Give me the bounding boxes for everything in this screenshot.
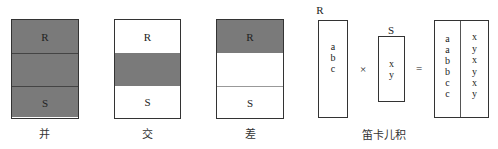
result-right-value: x [461,54,488,65]
cartesian-r-value: b [319,52,347,63]
result-left-value: b [435,55,460,66]
result-left-value: c [435,77,460,88]
intersection-overlap-region [115,53,180,86]
intersection-diagram: R S [114,19,181,119]
difference-r-label: R [217,31,283,43]
union-diagram: R S [11,19,79,119]
cartesian-r-label: R [312,4,328,16]
cartesian-result-box: a a b b c c x y x y x y [434,20,489,118]
cartesian-s-value: y [379,69,404,80]
cartesian-caption: 笛卡儿积 [359,126,409,142]
difference-s-label: S [217,97,283,109]
difference-overlap-region [217,53,283,86]
result-right-value: x [461,31,488,42]
union-caption: 并 [34,125,54,141]
cartesian-s-box: x y [378,36,405,102]
result-left-value: b [435,66,460,77]
result-left-value: a [435,33,460,44]
intersection-r-region: R [115,20,180,53]
cartesian-s-label: S [383,24,399,36]
result-left-value: c [435,88,460,99]
intersection-s-label: S [115,96,180,108]
union-overlap-region [12,53,78,86]
times-symbol: × [360,63,366,75]
cartesian-r-value: c [319,63,347,74]
intersection-caption: 交 [137,125,157,141]
result-left-value: a [435,44,460,55]
intersection-r-label: R [115,31,180,43]
difference-r-region: R [217,20,283,53]
difference-diagram: R S [216,19,284,119]
result-right-value: y [461,43,488,54]
cartesian-r-box: a b c [318,20,348,118]
result-right-value: x [461,77,488,88]
cartesian-s-value: x [379,58,404,69]
difference-s-region: S [217,86,283,117]
result-right-value: y [461,88,488,99]
cartesian-r-value: a [319,41,347,52]
union-r-region: R [12,20,78,53]
union-r-label: R [12,31,78,43]
result-right-value: y [461,66,488,77]
union-s-label: S [12,97,78,109]
difference-caption: 差 [240,125,260,141]
union-s-region: S [12,86,78,117]
equals-symbol: = [416,62,422,74]
intersection-s-region: S [115,86,180,117]
